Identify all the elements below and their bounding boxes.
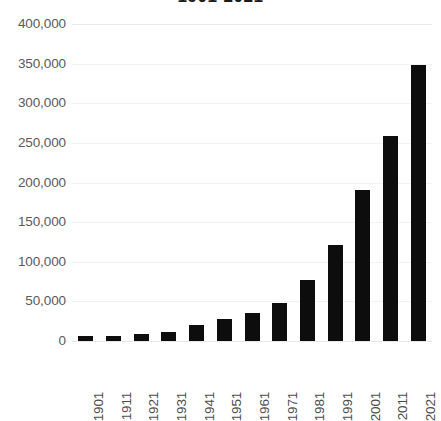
bar bbox=[272, 303, 287, 341]
bar bbox=[189, 325, 204, 341]
x-axis-tick-label: 1901 bbox=[92, 392, 105, 421]
y-axis-tick-label: 150,000 bbox=[0, 215, 66, 228]
y-axis-tick-label: 250,000 bbox=[0, 136, 66, 149]
bar bbox=[134, 334, 149, 341]
y-axis-tick-label: 300,000 bbox=[0, 96, 66, 109]
chart-title: 1901-2021 bbox=[0, 0, 441, 3]
bar bbox=[355, 190, 370, 341]
x-axis-tick-label: 1921 bbox=[147, 392, 160, 421]
y-axis-tick-label: 0 bbox=[0, 334, 66, 347]
x-axis-tick-label: 1991 bbox=[341, 392, 354, 421]
y-axis-tick-label: 350,000 bbox=[0, 57, 66, 70]
bar bbox=[411, 65, 426, 341]
x-axis-tick-label: 1981 bbox=[313, 392, 326, 421]
x-axis-tick-label: 2021 bbox=[424, 392, 437, 421]
bar bbox=[161, 332, 176, 341]
bar bbox=[78, 336, 93, 341]
x-axis-tick-label: 1931 bbox=[175, 392, 188, 421]
bar bbox=[383, 136, 398, 341]
y-axis-tick-label: 400,000 bbox=[0, 17, 66, 30]
x-axis-labels: 1901191119211931194119511961197119811991… bbox=[72, 345, 432, 400]
bar bbox=[300, 280, 315, 341]
x-axis-tick-label: 2011 bbox=[396, 392, 409, 420]
bar bbox=[106, 336, 121, 341]
bar bbox=[245, 313, 260, 341]
x-axis-tick-label: 1941 bbox=[203, 392, 216, 421]
gridline bbox=[72, 341, 432, 342]
x-axis-tick-label: 1971 bbox=[286, 392, 299, 421]
y-axis-tick-label: 200,000 bbox=[0, 176, 66, 189]
x-axis-tick-label: 1951 bbox=[230, 392, 243, 421]
bars-layer bbox=[72, 24, 432, 341]
y-axis-labels: 050,000100,000150,000200,000250,000300,0… bbox=[0, 0, 66, 400]
bar bbox=[217, 319, 232, 341]
y-axis-tick-label: 50,000 bbox=[0, 294, 66, 307]
bar bbox=[328, 245, 343, 341]
x-axis-tick-label: 2001 bbox=[369, 392, 382, 421]
x-axis-tick-label: 1911 bbox=[120, 392, 133, 420]
y-axis-tick-label: 100,000 bbox=[0, 255, 66, 268]
x-axis-tick-label: 1961 bbox=[258, 392, 271, 421]
